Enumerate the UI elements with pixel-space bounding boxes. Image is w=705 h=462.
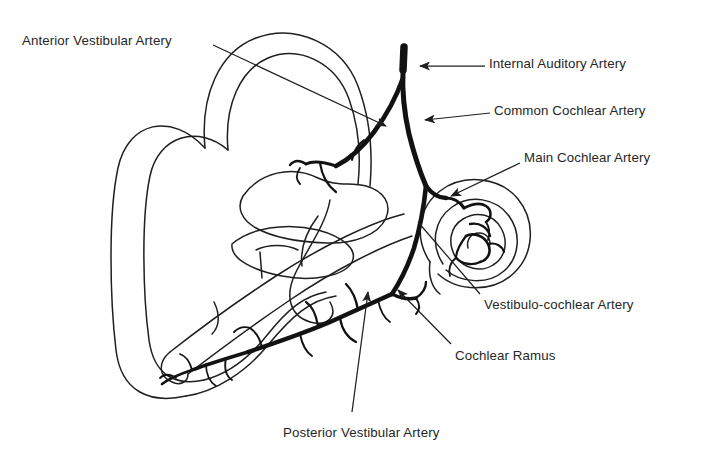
- lateral-semicircular-canal-inner: [144, 136, 228, 381]
- arterial-tree: [160, 47, 504, 386]
- superior-semicircular-canal-outer: [204, 33, 371, 186]
- label-cochlear-ramus: Cochlear Ramus: [455, 348, 555, 363]
- posterior-twig-k: [378, 300, 390, 322]
- posterior-vestibular-cont: [192, 352, 248, 370]
- posterior-semicircular-canal-inner: [204, 292, 326, 380]
- posterior-twig-e: [250, 328, 262, 348]
- lateral-semicircular-canal-outer: [111, 126, 205, 398]
- posterior-twig-d: [300, 334, 312, 356]
- posterior-twig-h: [180, 354, 192, 370]
- saccule-detail: [256, 246, 298, 251]
- utricle-outline: [232, 226, 353, 278]
- membranous-labyrinth-outlines: [111, 33, 530, 398]
- main-cochlear-entry: [446, 198, 464, 208]
- anterior-vestibular-branch-b: [290, 161, 306, 165]
- posterior-twig-j: [206, 364, 216, 386]
- label-main-cochlear-artery: Main Cochlear Artery: [524, 150, 650, 165]
- cochlea-base-opening: [429, 262, 440, 294]
- label-anterior-vestibular-artery: Anterior Vestibular Artery: [22, 33, 172, 48]
- label-vestibulo-cochlear-artery: Vestibulo-cochlear Artery: [484, 297, 634, 312]
- common-cochlear-artery-trunk: [403, 70, 426, 186]
- anterior-vestibular-twig-c: [297, 168, 300, 184]
- ampulla-detail: [260, 252, 262, 278]
- main-cochlear-artery: [426, 186, 446, 198]
- label-common-cochlear-artery: Common Cochlear Artery: [494, 103, 645, 118]
- internal-auditory-artery-trunk: [403, 47, 404, 70]
- cochlear-vessel-outer: [464, 204, 491, 222]
- label-internal-auditory-artery: Internal Auditory Artery: [489, 56, 626, 71]
- vestibule-outline: [240, 172, 388, 244]
- leader-common-cochlear-artery: [425, 113, 490, 120]
- cochlear-ramus-twig: [416, 282, 426, 298]
- cochlear-vessel-spur-b: [449, 258, 456, 276]
- label-posterior-vestibular-artery: Posterior Vestibular Artery: [283, 425, 439, 440]
- cochlear-vessel-inner-c: [456, 236, 466, 258]
- inner-ear-artery-diagram: Anterior Vestibular Artery Internal Audi…: [0, 0, 705, 462]
- posterior-twig-b: [340, 318, 356, 342]
- posterior-twig-a: [346, 284, 358, 310]
- cochlear-vessel-inner-b: [456, 258, 480, 264]
- anterior-vestibular-twig-a: [320, 163, 336, 192]
- leader-cochlear-ramus: [398, 290, 451, 344]
